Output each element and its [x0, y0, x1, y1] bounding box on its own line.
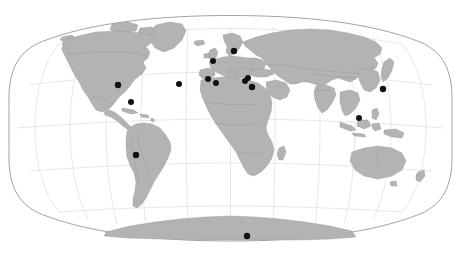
land-ireland	[204, 53, 209, 58]
marker-antarctica	[244, 233, 250, 239]
marker-mediterranean-aegean	[245, 75, 251, 81]
marker-south-america-bolivia	[133, 152, 139, 158]
world-map-canvas	[0, 0, 461, 257]
marker-mediterranean-levant	[249, 84, 255, 90]
marker-caribbean-bahamas	[128, 99, 134, 105]
marker-europe-british-isles	[210, 58, 216, 64]
marker-europe-iberia-portugal	[205, 76, 211, 82]
marker-north-america-southeast-usa	[115, 82, 121, 88]
marker-asia-japan	[380, 86, 386, 92]
world-map-figure	[0, 0, 461, 257]
marker-europe-scandinavia-denmark	[231, 48, 237, 54]
land-tasmania	[390, 181, 397, 186]
marker-asia-philippines	[356, 115, 362, 121]
marker-mid-atlantic-azores	[176, 81, 182, 87]
marker-north-africa-algeria	[213, 80, 219, 86]
